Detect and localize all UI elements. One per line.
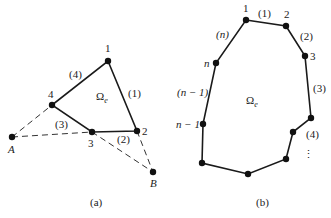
finite-element-diagram: 1234AB(1)(2)(3)(4) Ωe (a) 123n − 1n(1)(2…	[0, 0, 331, 218]
dashed-line-a3	[12, 132, 92, 137]
figure-b: 123n − 1n(1)(2)(3)(4)(n)(n − 1) Ωe ⋮ (b)	[176, 2, 326, 209]
b-node-label-1: 1	[243, 2, 249, 14]
b-edge-label-2: (3)	[313, 82, 326, 95]
b-node-label-3: 3	[310, 50, 316, 62]
dashed-line-a4	[12, 105, 52, 137]
a-point-label-A: A	[7, 143, 15, 155]
dashed-line-b2	[137, 131, 153, 172]
b-node-r4	[308, 115, 314, 121]
a-edge-label-2: (3)	[55, 118, 68, 131]
region-label-b: Ωe	[246, 94, 258, 109]
b-edge-label-4: (n)	[216, 28, 229, 41]
a-point-A	[9, 134, 15, 140]
a-node-3	[89, 129, 95, 135]
continuation-dots: ⋮	[303, 148, 314, 160]
b-edge-label-1: (2)	[300, 30, 313, 43]
b-node-label-2: 2	[284, 8, 290, 20]
b-edge-label-0: (1)	[258, 7, 271, 20]
b-edge-label-5: (n − 1)	[177, 86, 209, 99]
a-node-2	[134, 128, 140, 134]
a-point-label-B: B	[150, 177, 157, 189]
a-node-1	[105, 58, 111, 64]
b-node-2	[283, 23, 289, 29]
b-node-1	[243, 17, 249, 23]
a-node-4	[49, 102, 55, 108]
b-node-bl	[199, 160, 205, 166]
a-node-label-4: 4	[48, 88, 54, 100]
element-region-b	[202, 20, 311, 174]
b-node-r5	[290, 129, 296, 135]
region-label-a: Ωe	[96, 90, 108, 105]
caption-b: (b)	[256, 196, 269, 209]
a-node-label-3: 3	[88, 137, 94, 149]
figure-a: 1234AB(1)(2)(3)(4) Ωe (a)	[7, 42, 157, 209]
b-node-3	[302, 53, 308, 59]
b-node-n-1	[200, 121, 206, 127]
b-node-n	[213, 60, 219, 66]
b-node-bot	[245, 171, 251, 177]
a-edge-label-1: (2)	[117, 133, 130, 146]
a-node-label-2: 2	[142, 125, 148, 137]
b-node-label-n-1: n − 1	[176, 118, 200, 130]
b-edge-label-3: (4)	[306, 128, 319, 141]
caption-a: (a)	[90, 196, 103, 209]
b-node-label-n: n	[204, 57, 210, 69]
a-point-B	[150, 169, 156, 175]
a-edge-label-0: (1)	[128, 87, 141, 100]
a-node-label-1: 1	[105, 42, 111, 54]
a-edge-label-3: (4)	[69, 68, 82, 81]
b-node-r6	[283, 156, 289, 162]
